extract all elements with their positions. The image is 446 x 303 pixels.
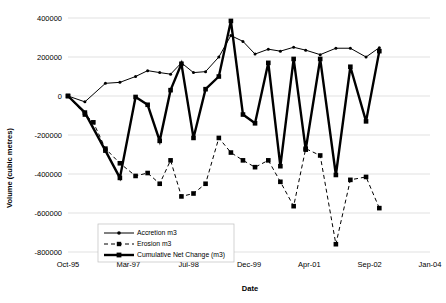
data-point-marker	[319, 53, 322, 56]
data-point-marker	[364, 175, 369, 180]
data-point-marker	[334, 242, 339, 247]
data-point-marker	[66, 94, 71, 99]
y-tick-label: 200000	[37, 53, 62, 62]
data-point-marker	[253, 165, 258, 170]
data-point-marker	[179, 194, 184, 199]
legend-marker-erosion	[117, 242, 121, 246]
legend-label: Erosion m3	[137, 240, 172, 247]
data-point-marker	[104, 82, 107, 85]
data-point-marker	[254, 53, 257, 56]
data-point-marker	[157, 139, 162, 144]
y-tick-label: -800000	[34, 248, 62, 257]
data-point-marker	[378, 46, 381, 49]
x-tick-label: Oct-95	[57, 260, 80, 269]
data-point-marker	[134, 75, 137, 78]
data-point-marker	[253, 121, 258, 126]
gridlines-group	[68, 18, 430, 252]
data-point-marker	[303, 147, 308, 152]
data-point-marker	[291, 204, 296, 209]
data-point-marker	[266, 61, 271, 66]
data-point-marker	[203, 181, 208, 186]
data-point-marker	[83, 100, 86, 103]
data-point-marker	[133, 174, 138, 179]
series-line	[68, 36, 379, 102]
data-point-marker	[168, 158, 173, 163]
data-point-marker	[191, 136, 196, 141]
data-point-marker	[217, 56, 220, 59]
data-point-marker	[203, 87, 208, 92]
data-point-marker	[334, 47, 337, 50]
data-point-marker	[192, 71, 195, 74]
data-point-marker	[157, 181, 162, 186]
data-point-marker	[278, 164, 283, 169]
legend-marker-accretion	[117, 231, 121, 235]
y-tick-label: -600000	[34, 209, 62, 218]
data-point-marker	[348, 64, 353, 69]
data-point-marker	[191, 191, 196, 196]
legend-label: Cumulative Net Change (m3)	[137, 251, 225, 259]
data-point-marker	[377, 206, 382, 211]
data-point-marker	[292, 46, 295, 49]
data-point-marker	[204, 70, 207, 73]
data-point-marker	[83, 110, 88, 115]
data-point-marker	[229, 150, 234, 155]
data-point-marker	[304, 49, 307, 52]
data-point-marker	[349, 47, 352, 50]
chart-container: 4000002000000-200000-400000-600000-80000…	[0, 0, 446, 303]
data-point-marker	[241, 40, 244, 43]
data-point-marker	[103, 148, 108, 153]
data-series-group	[66, 19, 382, 247]
y-tick-label: -200000	[34, 131, 62, 140]
legend-label: Accretion m3	[137, 229, 177, 236]
data-point-marker	[241, 112, 246, 117]
data-point-marker	[348, 178, 353, 183]
legend-marker-cumulative	[117, 253, 122, 258]
x-tick-label: Sep-02	[358, 260, 382, 269]
x-axis-title: Date	[242, 284, 258, 293]
y-tick-label: 400000	[37, 14, 62, 23]
y-axis-tick-labels: 4000002000000-200000-400000-600000-80000…	[34, 14, 62, 257]
data-point-marker	[179, 62, 184, 67]
data-point-marker	[118, 176, 123, 181]
data-point-marker	[334, 173, 339, 178]
x-tick-label: Jan-04	[419, 260, 442, 269]
data-point-marker	[217, 136, 222, 141]
data-point-marker	[146, 69, 149, 72]
data-point-marker	[241, 158, 246, 163]
data-point-marker	[217, 74, 222, 79]
x-tick-label: Apr-01	[298, 260, 321, 269]
data-point-marker	[278, 180, 283, 185]
data-point-marker	[377, 49, 382, 54]
data-point-marker	[365, 56, 368, 59]
y-tick-label: -400000	[34, 170, 62, 179]
line-chart: 4000002000000-200000-400000-600000-80000…	[0, 0, 446, 303]
data-point-marker	[229, 19, 234, 24]
data-point-marker	[168, 88, 173, 93]
y-tick-label: 0	[58, 92, 62, 101]
data-point-marker	[291, 57, 296, 62]
data-point-marker	[267, 48, 270, 51]
data-point-marker	[145, 171, 150, 176]
y-axis-title: Volume (cubic metres)	[5, 128, 14, 208]
data-point-marker	[145, 102, 150, 107]
chart-legend: Accretion m3Erosion m3Cumulative Net Cha…	[98, 224, 234, 262]
data-point-marker	[169, 73, 172, 76]
data-point-marker	[133, 95, 138, 100]
series-line	[68, 21, 379, 178]
data-point-marker	[318, 153, 323, 158]
x-tick-label: Dec-99	[237, 260, 261, 269]
data-point-marker	[118, 81, 121, 84]
data-point-marker	[318, 57, 323, 62]
data-point-marker	[158, 71, 161, 74]
data-point-marker	[364, 119, 369, 124]
data-point-marker	[279, 50, 282, 53]
data-point-marker	[266, 158, 271, 163]
